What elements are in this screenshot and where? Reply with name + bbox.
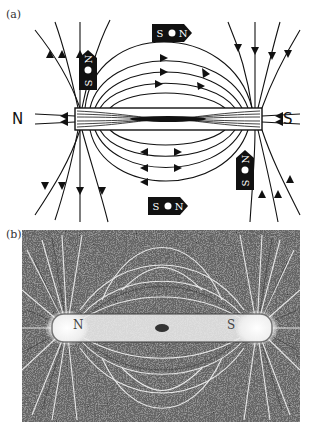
- svg-text:S: S: [83, 79, 94, 86]
- compass-bottom-center: S N: [148, 197, 188, 215]
- filings-south-pole-label: S: [227, 318, 235, 332]
- filings-north-pole-label: N: [73, 318, 84, 332]
- iron-filings-photo: [22, 230, 300, 422]
- svg-text:N: N: [240, 154, 251, 163]
- svg-text:S: S: [157, 28, 164, 39]
- panel-b-label: (b): [6, 228, 22, 241]
- magnet-south-pole-label: S: [283, 110, 293, 128]
- compass-top-center: S N: [152, 24, 192, 42]
- compass-upper-left: S N: [79, 50, 97, 90]
- svg-text:S: S: [240, 179, 251, 186]
- magnet-north-pole-label: N: [12, 110, 23, 128]
- svg-text:N: N: [175, 201, 184, 212]
- field-lines-diagram: S N S N S N S N: [0, 0, 309, 225]
- svg-text:N: N: [179, 28, 188, 39]
- bar-magnet: [75, 108, 262, 130]
- compass-lower-right: S N: [236, 150, 254, 190]
- svg-text:S: S: [153, 201, 160, 212]
- svg-text:N: N: [83, 54, 94, 63]
